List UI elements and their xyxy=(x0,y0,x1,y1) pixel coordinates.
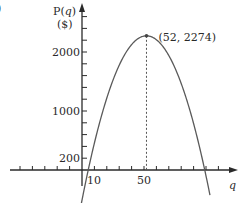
axis-labels: P(q) ($) q (52, 2274) xyxy=(53,5,236,192)
profit-chart: P(q) ($) q (52, 2274) 20010002000 1050 xyxy=(0,0,245,203)
x-tick-label: 50 xyxy=(137,174,151,187)
y-axis-unit: ($) xyxy=(57,18,73,31)
x-axis-title: q xyxy=(229,179,236,192)
y-tick-label: 2000 xyxy=(52,46,80,59)
y-axis-arrow-icon xyxy=(79,3,85,12)
y-tick-labels: 20010002000 xyxy=(52,46,80,165)
x-tick-labels: 1050 xyxy=(87,174,151,187)
x-tick-label: 10 xyxy=(87,174,101,187)
y-tick-label: 1000 xyxy=(52,105,80,118)
vertex-point xyxy=(145,34,149,38)
y-tick-label: 200 xyxy=(59,152,80,165)
y-axis-title: P(q) xyxy=(53,5,76,18)
vertex-annotation: (52, 2274) xyxy=(158,31,216,44)
x-axis-arrow-icon xyxy=(229,167,238,173)
